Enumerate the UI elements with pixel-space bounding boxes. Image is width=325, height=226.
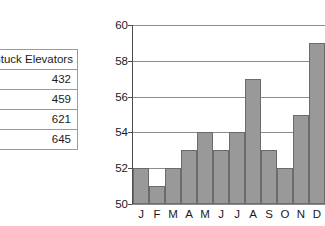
bar — [197, 132, 213, 204]
x-tick-label: O — [277, 208, 293, 221]
bar — [229, 132, 245, 204]
x-tick-label: F — [149, 208, 165, 221]
y-tick-label: 54 — [106, 127, 128, 137]
bar — [261, 150, 277, 204]
bar — [277, 168, 293, 204]
x-tick-label: N — [293, 208, 309, 221]
y-tick-mark — [128, 204, 132, 205]
chart-plot-area — [133, 25, 325, 204]
x-tick-label: J — [229, 208, 245, 221]
x-tick-label: J — [133, 208, 149, 221]
x-tick-label: D — [309, 208, 325, 221]
bar — [181, 150, 197, 204]
bar — [165, 168, 181, 204]
bar — [213, 150, 229, 204]
y-tick-label: 50 — [106, 199, 128, 209]
bar — [293, 115, 309, 205]
x-tick-label: S — [261, 208, 277, 221]
x-tick-label: J — [213, 208, 229, 221]
bar — [309, 43, 325, 204]
y-tick-label: 52 — [106, 163, 128, 173]
y-tick-label: 58 — [106, 56, 128, 66]
x-tick-label: M — [165, 208, 181, 221]
x-tick-label: A — [181, 208, 197, 221]
bar — [133, 168, 149, 204]
gridline — [132, 204, 325, 205]
x-tick-label: A — [245, 208, 261, 221]
y-tick-label: 56 — [106, 92, 128, 102]
y-tick-label: 60 — [106, 20, 128, 30]
x-tick-label: M — [197, 208, 213, 221]
bar-chart: 505254565860 JFMAMJJASOND — [0, 0, 325, 226]
bar — [245, 79, 261, 204]
bar — [149, 186, 165, 204]
